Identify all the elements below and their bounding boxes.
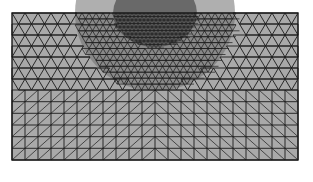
mesh-figure <box>0 0 313 182</box>
triangular-mesh-plot <box>0 0 313 182</box>
